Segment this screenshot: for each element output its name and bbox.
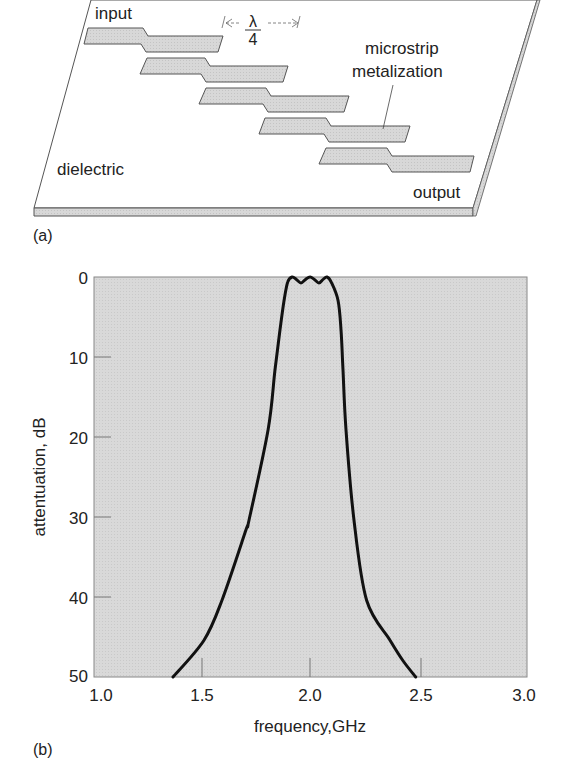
lambda-denominator: 4 bbox=[249, 31, 258, 48]
y-tick-10: 10 bbox=[69, 349, 88, 368]
y-axis-title: attentuation, dB bbox=[30, 417, 49, 536]
y-tick-0: 0 bbox=[79, 269, 88, 288]
metalization-label: metalization bbox=[352, 62, 443, 81]
y-tick-30: 30 bbox=[69, 509, 88, 528]
y-tick-labels: 0 10 20 30 40 50 bbox=[69, 269, 88, 686]
x-tick-labels: 1.0 1.5 2.0 2.5 3.0 bbox=[89, 686, 536, 705]
x-tick-1-0: 1.0 bbox=[89, 686, 113, 705]
x-tick-2-5: 2.5 bbox=[409, 686, 433, 705]
x-tick-2-0: 2.0 bbox=[298, 686, 322, 705]
panel-label-a: (a) bbox=[33, 227, 53, 244]
y-tick-40: 40 bbox=[69, 589, 88, 608]
input-label: input bbox=[95, 4, 132, 23]
microstrip-label: microstrip bbox=[365, 39, 439, 58]
microstrip-diagram: λ 4 input microstrip metalization dielec… bbox=[33, 0, 540, 244]
plot-area bbox=[94, 277, 527, 677]
attenuation-chart: 0 10 20 30 40 50 1.0 1.5 2.0 2.5 3.0 fre… bbox=[30, 269, 536, 758]
x-axis-title: frequency,GHz bbox=[254, 717, 366, 736]
figure-canvas: λ 4 input microstrip metalization dielec… bbox=[0, 0, 565, 769]
x-tick-3-0: 3.0 bbox=[512, 686, 536, 705]
panel-label-b: (b) bbox=[33, 741, 53, 758]
substrate-front-edge bbox=[34, 208, 473, 216]
output-label: output bbox=[413, 183, 461, 202]
x-tick-1-5: 1.5 bbox=[190, 686, 214, 705]
y-tick-20: 20 bbox=[69, 429, 88, 448]
lambda-symbol: λ bbox=[249, 13, 257, 30]
y-tick-50: 50 bbox=[69, 667, 88, 686]
dielectric-label: dielectric bbox=[57, 160, 125, 179]
